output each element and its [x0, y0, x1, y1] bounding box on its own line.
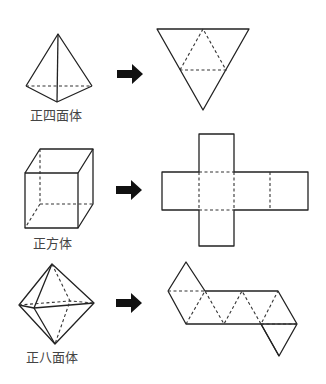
tetrahedron-solid: [26, 34, 92, 102]
cube-label: 正方体: [33, 236, 72, 251]
octahedron-net-outline-top: [168, 262, 297, 356]
cube-hidden-diagonal-edge: [25, 204, 40, 228]
cube-net: [162, 134, 308, 246]
cube-solid: [25, 149, 93, 228]
tetrahedron-bottom-edges: [26, 86, 92, 102]
tetrahedron-outer-edges: [26, 34, 92, 86]
right-arrow-icon: [116, 293, 142, 313]
octahedron-net-fold-zigzag: [186, 291, 278, 324]
octahedron-solid: [19, 264, 94, 344]
cube-front-face: [25, 173, 78, 228]
octahedron-label: 正八面体: [26, 350, 78, 365]
cube-top-face: [25, 149, 93, 173]
octahedron-net: [168, 262, 297, 356]
tetrahedron-label: 正四面体: [30, 108, 82, 123]
tetrahedron-net: [157, 29, 249, 110]
polyhedra-nets-diagram: 正四面体 正方体 正八面体: [0, 0, 326, 384]
octahedron-net-outline-tail: [261, 324, 279, 356]
cube-net-outline: [162, 134, 308, 246]
cube-hidden-edges: [40, 149, 93, 204]
tetrahedron-net-fold-lines: [180, 29, 226, 70]
right-arrow-icon: [116, 180, 142, 200]
tetrahedron-front-edge: [57, 34, 58, 102]
right-arrow-icon: [117, 64, 143, 84]
